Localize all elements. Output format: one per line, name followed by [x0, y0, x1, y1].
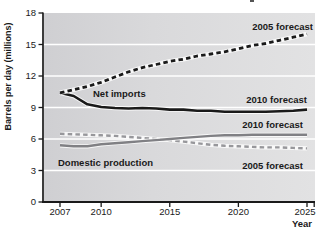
oil-forecast-chart: 036912151820072010201520202025Barrels pe…	[0, 0, 321, 232]
y-tick-label-18: 18	[25, 7, 36, 18]
label-net-imports: Net imports	[93, 88, 146, 99]
label-2010-forecast-imports: 2010 forecast	[246, 94, 308, 105]
cropped-text-artifact	[250, 0, 254, 2]
y-tick-label-12: 12	[25, 70, 36, 81]
y-tick-label-9: 9	[31, 102, 36, 113]
y-tick-label-6: 6	[31, 133, 36, 144]
x-tick-label-2015: 2015	[159, 206, 180, 217]
x-tick-label-2025: 2025	[294, 206, 315, 217]
x-tick-label-2020: 2020	[228, 206, 249, 217]
line-chart-canvas: 036912151820072010201520202025Barrels pe…	[0, 0, 321, 232]
x-tick-label-2007: 2007	[49, 206, 70, 217]
y-tick-label-15: 15	[25, 39, 36, 50]
y-axis-title: Barrels per day (millions)	[3, 22, 13, 130]
y-tick-label-0: 0	[31, 196, 36, 207]
y-tick-label-3: 3	[31, 165, 36, 176]
label-2005-forecast-imports: 2005 forecast	[252, 21, 314, 32]
label-2010-forecast-domestic: 2010 forecast	[242, 119, 304, 130]
x-tick-label-2010: 2010	[91, 206, 112, 217]
label-2005-forecast-domestic: 2005 forecast	[242, 160, 304, 171]
x-axis-title: Year	[292, 218, 312, 229]
label-domestic-production: Domestic production	[58, 157, 153, 168]
